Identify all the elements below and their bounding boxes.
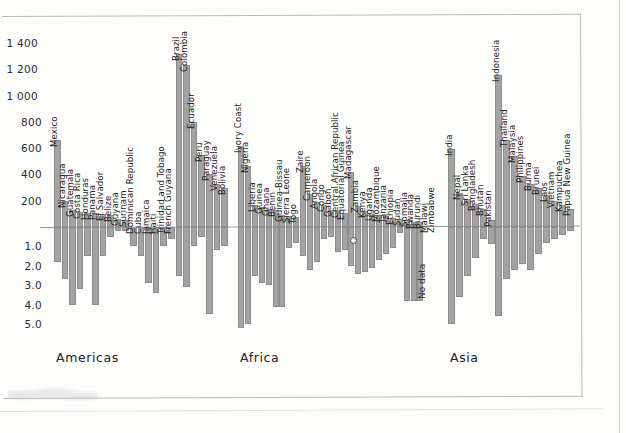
- bar-negative[interactable]: [535, 227, 542, 254]
- y-tick-label-pos-0: 1 400: [0, 37, 38, 49]
- bar-negative[interactable]: [511, 227, 518, 270]
- bar-group[interactable]: Bolivia: [221, 16, 228, 397]
- bar-negative[interactable]: [107, 227, 114, 237]
- bar-negative[interactable]: [355, 227, 361, 274]
- bar-negative[interactable]: [92, 227, 99, 305]
- bar-negative[interactable]: [464, 227, 471, 276]
- region-label-africa: Africa: [240, 350, 279, 365]
- bar-negative[interactable]: [328, 227, 334, 237]
- bar-group[interactable]: Zaire: [300, 16, 306, 397]
- bar-negative[interactable]: [259, 227, 265, 283]
- bar-negative[interactable]: [183, 227, 190, 287]
- bar-negative[interactable]: [221, 227, 228, 246]
- bar-negative[interactable]: [543, 227, 550, 243]
- bar-negative[interactable]: [252, 227, 258, 276]
- bar-group[interactable]: Brunei: [535, 16, 542, 397]
- bar-group[interactable]: Jamaica: [145, 16, 152, 397]
- bar-negative[interactable]: [495, 227, 502, 316]
- bar-negative[interactable]: [100, 227, 107, 256]
- bar-negative[interactable]: [376, 227, 382, 260]
- bar-negative[interactable]: [307, 227, 313, 270]
- bar-negative[interactable]: [145, 227, 152, 283]
- bar-negative[interactable]: [348, 227, 354, 266]
- bar-positive[interactable]: [191, 122, 198, 227]
- bar-negative[interactable]: [69, 227, 76, 305]
- bar-group[interactable]: Ivory Coast: [238, 16, 244, 397]
- bar-negative[interactable]: [273, 227, 279, 307]
- bar-negative[interactable]: [266, 227, 272, 285]
- bar-negative[interactable]: [335, 227, 341, 252]
- bar-category-label: Nigeria: [240, 141, 250, 172]
- bar-negative[interactable]: [214, 227, 221, 250]
- bar-negative[interactable]: [527, 227, 534, 270]
- bar-negative[interactable]: [153, 227, 160, 293]
- bar-group[interactable]: Thailand: [503, 16, 510, 397]
- bar-group[interactable]: Togo: [293, 16, 299, 397]
- bar-negative[interactable]: [176, 227, 183, 276]
- bar-negative[interactable]: [480, 227, 487, 239]
- bar-negative[interactable]: [321, 227, 327, 239]
- bar-group[interactable]: Indonesia: [495, 16, 502, 397]
- bar-negative[interactable]: [390, 227, 396, 248]
- bar-group[interactable]: Dominican Republic: [130, 16, 137, 397]
- bar-group[interactable]: Colombia: [183, 16, 190, 397]
- no-data-annotation: No data: [417, 264, 427, 299]
- bar-group[interactable]: Philippines: [519, 16, 526, 397]
- bar-negative[interactable]: [472, 227, 479, 258]
- plot-area: MexicoNicaraguaGuatemalaCosta RicaHondur…: [40, 16, 580, 397]
- bar-group[interactable]: Burma: [527, 16, 534, 397]
- bar-negative[interactable]: [551, 227, 558, 239]
- bar-negative[interactable]: [77, 227, 84, 289]
- bar-negative[interactable]: [300, 227, 306, 256]
- bar-group[interactable]: Peru: [198, 16, 205, 397]
- bar-category-label: Bolivia: [217, 165, 227, 194]
- bar-negative[interactable]: [404, 227, 410, 301]
- bar-negative[interactable]: [198, 227, 205, 237]
- bar-negative[interactable]: [397, 227, 403, 233]
- bar-negative[interactable]: [342, 227, 348, 250]
- bar-group[interactable]: Nepal: [456, 16, 463, 397]
- bar-group[interactable]: Papua New Guinea: [567, 16, 574, 397]
- bar-negative[interactable]: [314, 227, 320, 262]
- y-tick-label-pos-1: 1 200: [0, 63, 38, 75]
- bar-negative[interactable]: [286, 227, 292, 248]
- bar-positive[interactable]: [495, 75, 502, 227]
- bar-group[interactable]: India: [448, 16, 455, 397]
- bar-negative[interactable]: [369, 227, 375, 268]
- bar-negative[interactable]: [488, 227, 495, 244]
- bar-group[interactable]: Ecuador: [191, 16, 198, 397]
- bar-negative[interactable]: [456, 227, 463, 297]
- bar-negative[interactable]: [411, 227, 417, 301]
- bar-negative[interactable]: [519, 227, 526, 264]
- bar-group[interactable]: Malaysia: [511, 16, 518, 397]
- bar-group[interactable]: French Guyana: [168, 16, 175, 397]
- bar-category-label: Mexico: [49, 117, 59, 148]
- bar-group[interactable]: Equatorial Guinea: [342, 16, 348, 397]
- bar-negative[interactable]: [115, 227, 122, 231]
- bar-negative[interactable]: [245, 227, 251, 324]
- bar-negative[interactable]: [62, 227, 69, 279]
- bar-negative[interactable]: [84, 227, 91, 256]
- bar-negative[interactable]: [238, 227, 244, 328]
- bar-group[interactable]: Paraguay: [206, 16, 213, 397]
- bar-negative[interactable]: [362, 227, 368, 272]
- bar-negative[interactable]: [448, 227, 455, 324]
- bar-negative[interactable]: [191, 227, 198, 246]
- bar-group[interactable]: Venezuela: [214, 16, 221, 397]
- bar-group[interactable]: Zimbabwe: [431, 16, 437, 397]
- y-tick-label-pos-3: 800: [0, 116, 42, 128]
- bar-negative[interactable]: [54, 227, 61, 262]
- bar-negative[interactable]: [383, 227, 389, 254]
- y-tick-label-pos-2: 1 000: [0, 90, 38, 102]
- bar-positive[interactable]: [176, 54, 183, 227]
- bar-negative[interactable]: [567, 227, 574, 231]
- bar-negative[interactable]: [206, 227, 213, 314]
- bar-negative[interactable]: [293, 227, 299, 243]
- bar-positive[interactable]: [183, 65, 190, 227]
- bar-negative[interactable]: [279, 227, 285, 307]
- region-group-asia: IndiaNepalSri LankaBangladeshBhutanPakis…: [448, 16, 584, 397]
- bar-negative[interactable]: [503, 227, 510, 279]
- bar-negative[interactable]: [559, 227, 566, 235]
- bar-category-label: Madagascar: [343, 126, 353, 179]
- bar-group[interactable]: Brazil: [176, 16, 183, 397]
